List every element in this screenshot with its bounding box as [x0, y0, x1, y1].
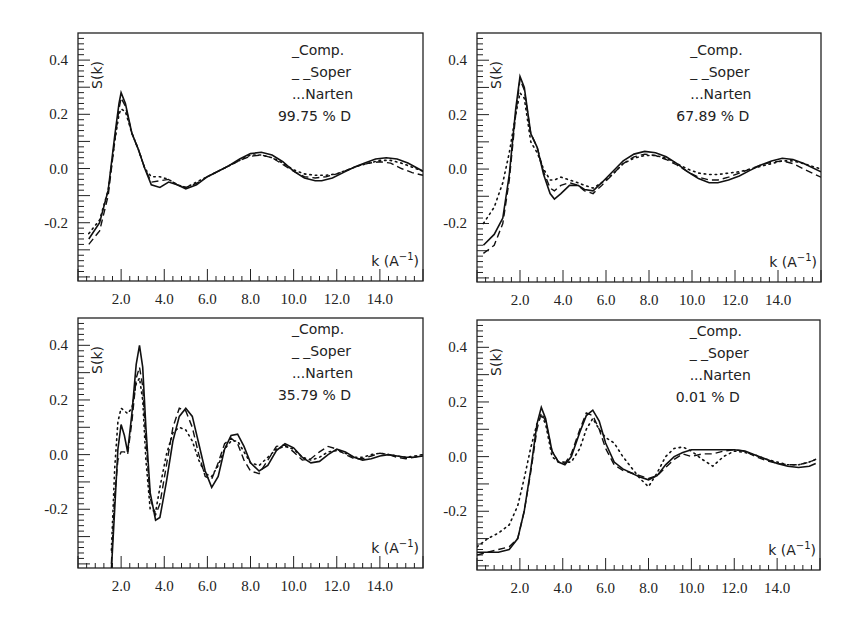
x-tick-label: 12.0	[722, 292, 748, 308]
y-axis-title: S(k)	[488, 348, 504, 376]
legend-item: ...Narten	[292, 86, 353, 102]
legend-item: ...Narten	[292, 365, 353, 381]
y-tick-label: 0.4	[448, 52, 467, 68]
series-narten	[111, 378, 423, 550]
legend-item: _ _Soper	[291, 64, 351, 80]
series-comp	[483, 77, 821, 246]
x-tick-label: 6.0	[198, 291, 217, 307]
plot-frame	[477, 320, 820, 570]
legend-item: ...Narten	[690, 86, 751, 102]
y-tick-label: 0.4	[448, 339, 467, 355]
x-tick-label: 8.0	[241, 291, 260, 307]
y-axis-title: S(k)	[89, 61, 105, 89]
x-axis-title: k (A−1)	[371, 251, 419, 269]
x-tick-label: 8.0	[640, 292, 659, 308]
series-comp	[477, 407, 816, 552]
y-tick-label: 0.2	[49, 392, 68, 408]
series-comp	[89, 93, 423, 239]
y-tick-label: 0.0	[448, 449, 467, 465]
x-tick-label: 12.0	[721, 580, 747, 596]
y-tick-label: -0.2	[44, 215, 68, 231]
legend: _Comp._ _Soper...Narten99.75 % D	[278, 42, 353, 124]
y-axis-title: S(k)	[89, 346, 105, 374]
x-tick-label: 10.0	[281, 291, 307, 307]
figure-canvas: 2.04.06.08.010.012.014.00.40.20.0-0.2S(k…	[0, 0, 855, 628]
x-tick-label: 14.0	[764, 580, 790, 596]
y-tick-label: 0.4	[49, 52, 68, 68]
x-axis-title: k (A−1)	[371, 538, 419, 556]
x-tick-label: 6.0	[198, 578, 217, 594]
plot-frame	[477, 33, 821, 282]
legend: _Comp._ _Soper...Narten0.01 % D	[676, 323, 751, 405]
y-tick-label: 0.0	[448, 161, 467, 177]
x-tick-label: 10.0	[679, 292, 705, 308]
x-tick-label: 4.0	[155, 578, 174, 594]
legend-item: ...Narten	[690, 367, 751, 383]
x-tick-label: 2.0	[511, 292, 530, 308]
plot-frame	[78, 33, 423, 281]
legend-item: _ _Soper	[291, 343, 351, 359]
series-narten	[483, 93, 821, 224]
x-axis-title: k (A−1)	[768, 540, 816, 558]
y-tick-label: -0.2	[44, 501, 68, 517]
x-tick-label: 4.0	[553, 580, 572, 596]
legend-item: _Comp.	[291, 42, 344, 58]
x-tick-label: 10.0	[678, 580, 704, 596]
legend-item: _ _Soper	[689, 345, 749, 361]
chart-panel-2: 2.04.06.08.010.012.014.00.40.20.0-0.2S(k…	[44, 318, 423, 594]
y-tick-label: 0.0	[49, 447, 68, 463]
legend: _Comp._ _Soper...Narten67.89 % D	[676, 42, 751, 124]
y-axis-title: S(k)	[488, 61, 504, 89]
series-soper	[89, 98, 423, 244]
x-tick-label: 4.0	[554, 292, 573, 308]
x-tick-label: 2.0	[112, 578, 131, 594]
x-tick-label: 14.0	[367, 291, 393, 307]
legend: _Comp._ _Soper...Narten35.79 % D	[278, 321, 353, 403]
y-tick-label: -0.2	[443, 503, 467, 519]
x-tick-label: 10.0	[281, 578, 307, 594]
y-tick-label: 0.4	[49, 337, 68, 353]
chart-panel-3: 2.04.06.08.010.012.014.00.40.20.0-0.2S(k…	[443, 320, 820, 596]
x-tick-label: 8.0	[241, 578, 260, 594]
x-tick-label: 2.0	[511, 580, 530, 596]
legend-item: _Comp.	[689, 323, 742, 339]
deuterium-fraction-label: 35.79 % D	[278, 387, 351, 403]
x-tick-label: 2.0	[112, 291, 131, 307]
x-axis-title: k (A−1)	[769, 252, 817, 270]
deuterium-fraction-label: 67.89 % D	[676, 108, 749, 124]
x-tick-label: 14.0	[367, 578, 393, 594]
legend-item: _Comp.	[291, 321, 344, 337]
y-tick-label: 0.2	[448, 394, 467, 410]
y-tick-label: -0.2	[443, 215, 467, 231]
chart-panel-1: 2.04.06.08.010.012.014.00.40.20.0-0.2S(k…	[443, 33, 821, 308]
x-tick-label: 8.0	[639, 580, 658, 596]
x-tick-label: 4.0	[155, 291, 174, 307]
x-tick-label: 6.0	[596, 580, 615, 596]
series-soper	[483, 79, 821, 253]
legend-item: _Comp.	[689, 42, 742, 58]
y-tick-label: 0.0	[49, 161, 68, 177]
legend-item: _ _Soper	[689, 64, 749, 80]
deuterium-fraction-label: 99.75 % D	[278, 108, 351, 124]
x-tick-label: 6.0	[597, 292, 616, 308]
x-tick-label: 12.0	[324, 291, 350, 307]
x-tick-label: 12.0	[324, 578, 350, 594]
series-narten	[477, 416, 816, 547]
chart-panel-0: 2.04.06.08.010.012.014.00.40.20.0-0.2S(k…	[44, 33, 423, 307]
y-tick-label: 0.2	[49, 106, 68, 122]
series-narten	[89, 109, 423, 234]
y-tick-label: 0.2	[448, 107, 467, 123]
x-tick-label: 14.0	[765, 292, 791, 308]
deuterium-fraction-label: 0.01 % D	[676, 389, 740, 405]
